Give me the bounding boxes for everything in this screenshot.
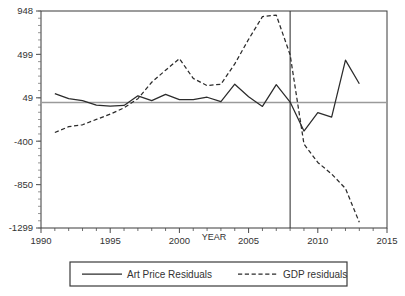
series-line-art-price-residuals — [55, 60, 359, 131]
x-tick-label: 2015 — [376, 235, 397, 246]
y-tick-label: 948 — [17, 5, 33, 16]
x-tick-label: 1990 — [30, 235, 51, 246]
y-axis-ticks — [36, 11, 41, 228]
legend-label-art-price-residuals: Art Price Residuals — [127, 269, 212, 280]
y-tick-label: 49 — [22, 92, 33, 103]
residuals-line-chart: 199019952000200520102015 94849949-400-85… — [0, 0, 405, 296]
plot-border — [41, 11, 387, 228]
data-series-layer — [55, 15, 359, 222]
chart-figure: 199019952000200520102015 94849949-400-85… — [0, 0, 405, 296]
x-tick-label: 2010 — [307, 235, 328, 246]
y-tick-label: 499 — [17, 49, 33, 60]
y-tick-label: -400 — [14, 136, 33, 147]
y-tick-label: -850 — [14, 179, 33, 190]
x-tick-label: 2000 — [169, 235, 190, 246]
legend-label-gdp-residuals: GDP residuals — [283, 269, 347, 280]
y-axis-tick-labels: 94849949-400-850-1299 — [9, 5, 33, 233]
reference-lines — [41, 11, 387, 228]
chart-legend: Art Price ResidualsGDP residuals — [70, 262, 347, 286]
x-axis-title: YEAR — [202, 232, 227, 242]
x-tick-label: 1995 — [100, 235, 121, 246]
x-tick-label: 2005 — [238, 235, 259, 246]
plot-frame — [41, 11, 387, 228]
y-tick-label: -1299 — [9, 222, 33, 233]
